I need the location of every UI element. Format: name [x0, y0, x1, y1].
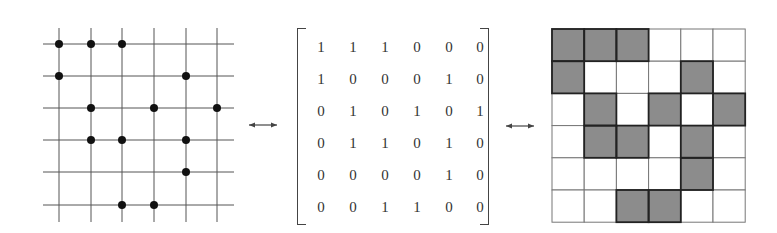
empty-cell	[584, 158, 616, 190]
empty-cell	[649, 29, 681, 61]
lattice-dot	[118, 40, 126, 48]
matrix-cell: 0	[338, 63, 368, 95]
shaded-grid	[552, 29, 745, 222]
empty-cell	[713, 158, 745, 190]
matrix-cell: 0	[465, 191, 495, 223]
matrix-row: 000010	[297, 159, 489, 191]
empty-cell	[616, 61, 648, 93]
shaded-cell	[584, 29, 616, 61]
matrix-cell: 1	[370, 191, 400, 223]
matrix-cell: 1	[306, 63, 336, 95]
matrix-cell: 0	[370, 159, 400, 191]
matrix-cell: 0	[370, 95, 400, 127]
shaded-cell	[616, 29, 648, 61]
matrix-cell: 0	[434, 191, 464, 223]
shaded-cell	[584, 126, 616, 158]
shaded-cell	[584, 93, 616, 125]
matrix-cell: 1	[370, 127, 400, 159]
shaded-cell	[713, 93, 745, 125]
matrix-cell: 0	[306, 191, 336, 223]
matrix-cell: 1	[338, 95, 368, 127]
lattice-dot	[55, 72, 63, 80]
matrix-cell: 0	[402, 31, 432, 63]
empty-cell	[552, 190, 584, 222]
lattice-dot	[55, 40, 63, 48]
lattice-dot	[87, 40, 95, 48]
empty-cell	[681, 29, 713, 61]
empty-cell	[584, 61, 616, 93]
matrix-cell: 1	[465, 95, 495, 127]
shaded-cell	[552, 61, 584, 93]
empty-cell	[616, 93, 648, 125]
empty-cell	[713, 190, 745, 222]
empty-cell	[649, 126, 681, 158]
empty-cell	[649, 61, 681, 93]
empty-cell	[713, 61, 745, 93]
lattice-dot	[213, 104, 221, 112]
empty-cell	[552, 158, 584, 190]
lattice-dot	[150, 104, 158, 112]
shaded-cell	[616, 190, 648, 222]
dot-lattice	[43, 28, 234, 222]
matrix-cell: 0	[402, 63, 432, 95]
matrix-cell: 1	[370, 31, 400, 63]
lattice-dot	[87, 136, 95, 144]
shaded-cell	[681, 61, 713, 93]
matrix-cell: 1	[434, 159, 464, 191]
matrix-cell: 0	[338, 159, 368, 191]
matrix-cell: 1	[402, 191, 432, 223]
matrix-row: 010101	[297, 95, 489, 127]
lattice-dot	[118, 136, 126, 144]
matrix-cell: 0	[434, 95, 464, 127]
empty-cell	[713, 29, 745, 61]
matrix-cell: 0	[465, 159, 495, 191]
lattice-dot	[182, 136, 190, 144]
matrix-cell: 1	[434, 63, 464, 95]
matrix-row: 100010	[297, 63, 489, 95]
matrix-cell: 1	[402, 95, 432, 127]
empty-cell	[616, 158, 648, 190]
matrix-cell: 1	[338, 127, 368, 159]
matrix-row: 011010	[297, 127, 489, 159]
double-arrow-icon	[249, 123, 277, 128]
matrix-cell: 1	[434, 127, 464, 159]
matrix-cell: 1	[338, 31, 368, 63]
lattice-dot	[87, 104, 95, 112]
double-arrow-icon	[506, 124, 534, 129]
matrix-cell: 0	[465, 63, 495, 95]
empty-cell	[584, 190, 616, 222]
binary-matrix: 111000100010010101011010000010001100	[297, 28, 489, 223]
matrix-cell: 0	[338, 191, 368, 223]
shaded-cell	[616, 126, 648, 158]
matrix-cell: 0	[306, 95, 336, 127]
empty-cell	[552, 93, 584, 125]
empty-cell	[649, 158, 681, 190]
shaded-cell	[552, 29, 584, 61]
shaded-cell	[649, 93, 681, 125]
empty-cell	[681, 93, 713, 125]
lattice-dot	[182, 168, 190, 176]
matrix-cell: 0	[306, 159, 336, 191]
matrix-cell: 0	[402, 159, 432, 191]
shaded-cell	[681, 126, 713, 158]
matrix-cell: 0	[465, 31, 495, 63]
matrix-cell: 0	[434, 31, 464, 63]
matrix-cell: 0	[306, 127, 336, 159]
matrix-cell: 0	[402, 127, 432, 159]
matrix-cell: 0	[465, 127, 495, 159]
lattice-dot	[150, 201, 158, 209]
matrix-row: 001100	[297, 191, 489, 223]
empty-cell	[713, 126, 745, 158]
lattice-dot	[182, 72, 190, 80]
empty-cell	[681, 190, 713, 222]
matrix-cell: 1	[306, 31, 336, 63]
shaded-cell	[649, 190, 681, 222]
shaded-cell	[681, 158, 713, 190]
empty-cell	[552, 126, 584, 158]
matrix-row: 111000	[297, 31, 489, 63]
lattice-dot	[118, 201, 126, 209]
matrix-cell: 0	[370, 63, 400, 95]
